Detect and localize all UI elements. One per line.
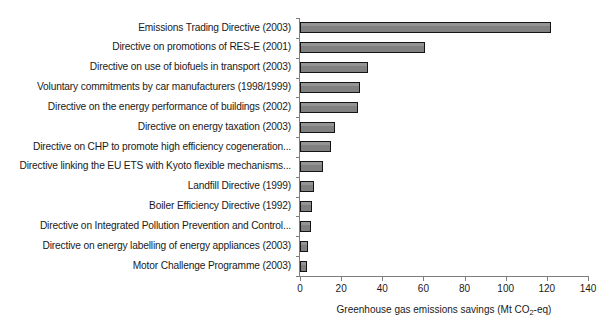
bar-row (300, 236, 588, 256)
x-axis-tick-label: 20 (336, 283, 347, 294)
bar-row (300, 78, 588, 98)
category-label-row: Directive on promotions of RES-E (2001) (0, 38, 296, 58)
category-label-row: Directive on Integrated Pollution Preven… (0, 216, 296, 236)
category-label: Motor Challenge Programme (2003) (133, 261, 291, 272)
bar-row (300, 256, 588, 276)
bar (300, 82, 360, 93)
x-axis-tick-label: 80 (459, 283, 470, 294)
bar (300, 141, 331, 152)
bar-row (300, 137, 588, 157)
x-axis-tick (341, 276, 342, 281)
bar-row (300, 117, 588, 137)
category-label-row: Directive linking the EU ETS with Kyoto … (0, 157, 296, 177)
bar (300, 161, 323, 172)
bar (300, 22, 551, 33)
category-label-row: Landfill Directive (1999) (0, 177, 296, 197)
x-axis-tick-label: 0 (297, 283, 303, 294)
category-label: Landfill Directive (1999) (188, 181, 291, 192)
category-label-row: Directive on CHP to promote high efficie… (0, 137, 296, 157)
x-axis-title-text: Greenhouse gas emissions savings (Mt CO (337, 304, 530, 315)
category-label: Directive on promotions of RES-E (2001) (112, 42, 291, 53)
bar (300, 42, 425, 53)
x-axis-tick-labels: 020406080100120140 (300, 283, 588, 297)
category-label-row: Directive on use of biofuels in transpor… (0, 58, 296, 78)
bar (300, 201, 312, 212)
category-label-row: Emissions Trading Directive (2003) (0, 18, 296, 38)
x-axis-tick (382, 276, 383, 281)
category-label-row: Boiler Efficiency Directive (1992) (0, 197, 296, 217)
x-axis-tick-marks (300, 276, 588, 281)
x-axis-tick (465, 276, 466, 281)
bar (300, 261, 307, 272)
x-axis-title-suffix: -eq) (534, 304, 552, 315)
bar (300, 62, 368, 73)
category-label: Directive on CHP to promote high efficie… (33, 142, 291, 153)
bar (300, 181, 314, 192)
category-label-row: Motor Challenge Programme (2003) (0, 256, 296, 276)
bar (300, 102, 358, 113)
category-label-column: Emissions Trading Directive (2003)Direct… (0, 18, 296, 276)
x-axis-tick-label: 60 (418, 283, 429, 294)
bar-row (300, 216, 588, 236)
category-label-row: Directive on energy labelling of energy … (0, 236, 296, 256)
bar-row (300, 157, 588, 177)
category-label: Emissions Trading Directive (2003) (138, 23, 291, 34)
x-axis-tick (506, 276, 507, 281)
category-label: Voluntary commitments by car manufacture… (37, 82, 291, 93)
x-axis-tick (300, 276, 301, 281)
bar-series (300, 18, 588, 276)
category-label: Directive on energy taxation (2003) (138, 122, 291, 133)
bar (300, 122, 335, 133)
x-axis-tick-label: 120 (539, 283, 556, 294)
category-label-row: Directive on the energy performance of b… (0, 97, 296, 117)
category-label: Directive on use of biofuels in transpor… (90, 62, 291, 73)
x-axis-title: Greenhouse gas emissions savings (Mt CO2… (300, 304, 588, 317)
category-label-row: Voluntary commitments by car manufacture… (0, 78, 296, 98)
bar (300, 241, 308, 252)
bar-row (300, 177, 588, 197)
x-axis-tick-label: 100 (497, 283, 514, 294)
category-label: Boiler Efficiency Directive (1992) (149, 201, 291, 212)
x-axis-tick (588, 276, 589, 281)
bar (300, 221, 311, 232)
x-axis-tick (423, 276, 424, 281)
bar-row (300, 18, 588, 38)
category-label: Directive on Integrated Pollution Preven… (40, 221, 291, 232)
bar-row (300, 38, 588, 58)
category-label-row: Directive on energy taxation (2003) (0, 117, 296, 137)
bar-row (300, 58, 588, 78)
bar-row (300, 97, 588, 117)
x-axis-tick-label: 40 (377, 283, 388, 294)
bar-row (300, 197, 588, 217)
category-label: Directive on energy labelling of energy … (42, 241, 291, 252)
category-label: Directive on the energy performance of b… (48, 102, 291, 113)
category-label: Directive linking the EU ETS with Kyoto … (19, 161, 291, 172)
x-axis-tick-label: 140 (580, 283, 597, 294)
bar-chart: Emissions Trading Directive (2003)Direct… (0, 0, 610, 331)
plot-area (300, 18, 588, 276)
x-axis-tick (547, 276, 548, 281)
